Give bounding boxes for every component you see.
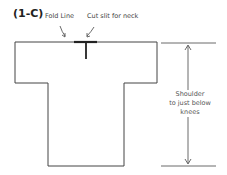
measurement-line-1: Shoulder [166,90,214,99]
fold-line-arrow-icon [60,26,65,37]
tunic-pattern-diagram [0,0,227,175]
measurement-line-2: to just below [166,99,214,108]
measurement-line-3: knees [166,108,214,117]
garment-outline [15,42,157,166]
measurement-label: Shoulder to just below knees [166,90,214,117]
cut-slit-arrow-icon [87,27,94,37]
